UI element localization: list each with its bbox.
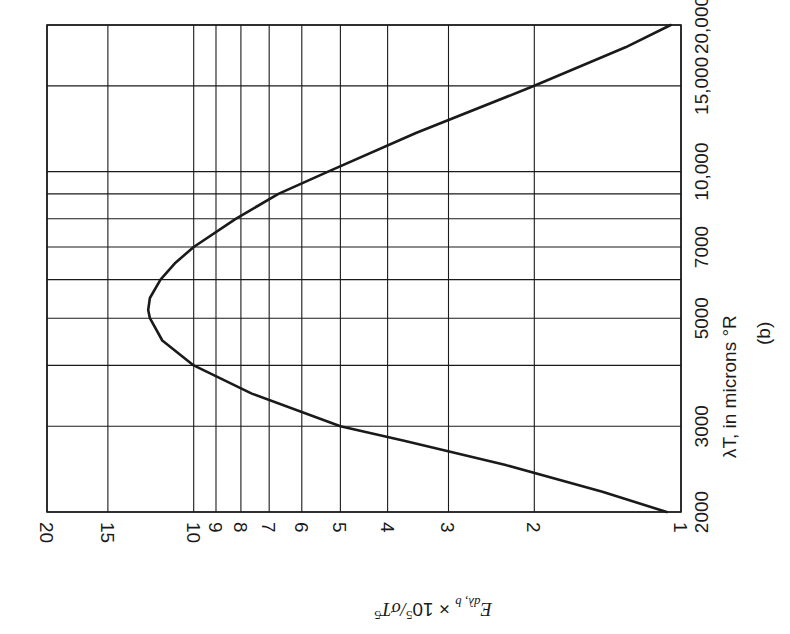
- y-axis-title: Edλ, b × 105/σT5: [374, 595, 493, 623]
- x-tick-label: 15,000: [691, 57, 712, 115]
- y-tick-label: 6: [291, 522, 312, 533]
- y-tick-label: 20: [36, 522, 57, 543]
- x-tick-label: 7000: [691, 226, 712, 268]
- grid-lines: [47, 25, 681, 512]
- planck-curve-chart: 200030005000700010,00015,00020,000 12345…: [0, 0, 790, 634]
- x-axis-title: λT, in microns °R: [719, 315, 740, 458]
- y-tick-label: 2: [523, 522, 544, 533]
- y-tick-label: 15: [97, 522, 118, 543]
- x-tick-label: 20,000: [691, 0, 712, 54]
- y-tick-label: 10: [183, 522, 204, 543]
- y-tick-label: 1: [670, 522, 691, 533]
- y-tick-label: 9: [205, 522, 226, 533]
- svg-text:Edλ, b × 105/σT5: Edλ, b × 105/σT5: [374, 595, 493, 623]
- y-tick-label: 5: [329, 522, 350, 533]
- x-tick-label: 2000: [691, 491, 712, 533]
- x-axis-tick-labels: 200030005000700010,00015,00020,000: [691, 0, 712, 533]
- y-tick-label: 4: [377, 522, 398, 533]
- plot-frame: [47, 25, 681, 512]
- x-tick-label: 10,000: [691, 143, 712, 201]
- x-tick-label: 5000: [691, 297, 712, 339]
- y-axis-tick-labels: 123456789101520: [36, 522, 691, 543]
- data-curve: [148, 25, 671, 512]
- y-tick-label: 3: [437, 522, 458, 533]
- panel-label: (b): [753, 322, 774, 345]
- x-tick-label: 3000: [691, 405, 712, 447]
- y-tick-label: 7: [258, 522, 279, 533]
- y-tick-label: 8: [230, 522, 251, 533]
